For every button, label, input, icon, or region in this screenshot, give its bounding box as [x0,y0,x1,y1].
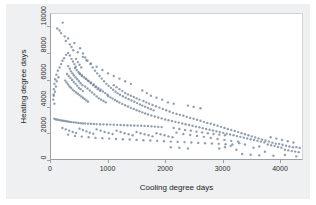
x-tick-label: 0 [38,165,62,172]
scatter-plot-figure: Heating degree days 02000400060008000100… [0,0,316,205]
x-tick-mark [165,160,166,163]
y-axis-title: Heating degree days [19,13,28,160]
x-tick-label: 3000 [211,165,235,172]
x-tick-mark [280,160,281,163]
x-axis-title: Cooling degree days [50,183,303,192]
x-tick-mark [223,160,224,163]
x-tick-mark [50,160,51,163]
plot-area [50,13,303,160]
x-tick-label: 4000 [268,165,292,172]
x-tick-mark [108,160,109,163]
scatter-points-layer [51,14,302,159]
x-tick-label: 2000 [153,165,177,172]
x-tick-label: 1000 [96,165,120,172]
